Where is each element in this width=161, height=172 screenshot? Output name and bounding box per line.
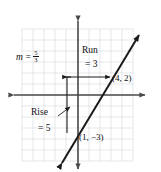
slope-diagram-figure: m = 5 3 Run = 3 Rise = 5 (4, 2) (1, −3) <box>0 0 161 172</box>
slope-formula: m = 5 3 <box>16 50 39 65</box>
point-label-lower: (1, −3) <box>79 133 104 142</box>
point-label-upper: (4, 2) <box>112 74 132 83</box>
rise-leader-arrow <box>58 107 70 116</box>
run-label: Run <box>82 46 98 56</box>
slope-equals: = <box>25 53 31 63</box>
slope-fraction: 5 3 <box>33 50 38 65</box>
plotted-line <box>62 35 139 163</box>
rise-value-label: = 5 <box>38 124 50 134</box>
rise-label: Rise <box>31 108 48 118</box>
run-value-label: = 3 <box>85 60 97 70</box>
coordinate-plane-svg <box>0 0 161 172</box>
slope-denominator: 3 <box>33 57 38 64</box>
axis-lines <box>14 21 145 169</box>
slope-variable: m <box>16 53 23 63</box>
